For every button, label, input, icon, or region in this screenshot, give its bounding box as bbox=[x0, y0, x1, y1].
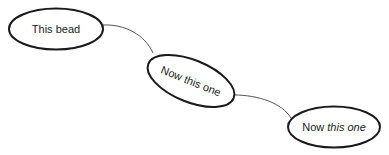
bead-diagram: This bead Now this one Now this one bbox=[0, 0, 389, 155]
bead-3-label: Now this one bbox=[302, 121, 366, 133]
connector-bead1-bead2 bbox=[103, 25, 153, 53]
bead-1-label: This bead bbox=[32, 23, 80, 35]
connector-bead2-bead3 bbox=[234, 95, 291, 118]
bead-3-label-normal: Now bbox=[302, 121, 327, 133]
bead-3-label-italic: this one bbox=[327, 121, 366, 133]
bead-2[interactable]: Now this one bbox=[140, 44, 241, 117]
bead-3[interactable]: Now this one bbox=[288, 107, 380, 148]
bead-1[interactable]: This bead bbox=[9, 9, 103, 50]
